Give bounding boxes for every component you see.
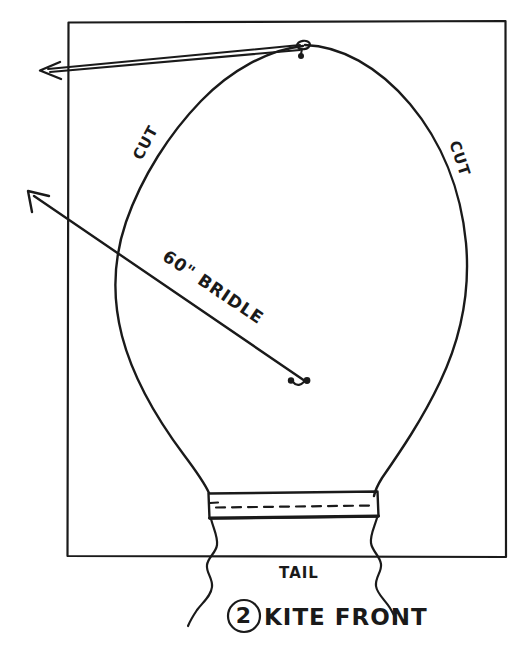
- diagram-title: KITE FRONT: [264, 604, 428, 630]
- kite-outline: [115, 45, 467, 496]
- kite-diagram-canvas: CUT CUT 60" BRIDLE TAIL 2 KITE FRONT: [0, 0, 523, 669]
- step-number-text: 2: [236, 603, 252, 628]
- step-number-badge: 2: [228, 600, 260, 632]
- fabric-rectangle: [68, 21, 507, 557]
- bridle-length-label: 60" BRIDLE: [159, 246, 267, 328]
- bridle-line-lower: [34, 196, 305, 381]
- stitch-line: [216, 506, 374, 508]
- tail-label: TAIL: [279, 564, 319, 582]
- tail-left-edge: [188, 519, 217, 626]
- kite-front-diagram: CUT CUT 60" BRIDLE TAIL 2 KITE FRONT: [0, 0, 523, 669]
- arrow-lower: [28, 191, 49, 212]
